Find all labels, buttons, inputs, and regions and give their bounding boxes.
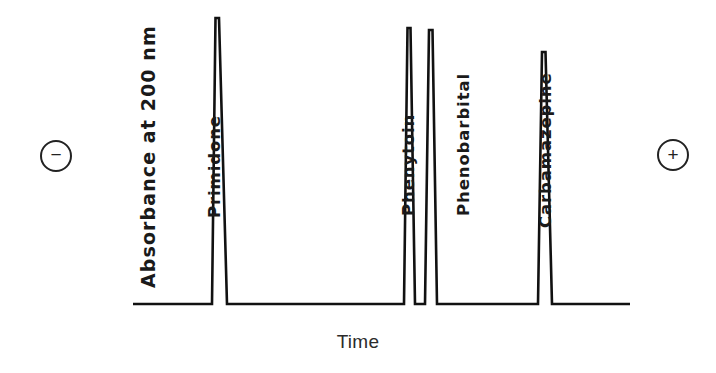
peak-label-phenytoin: Phenytoin <box>401 114 418 216</box>
chromatogram-trace <box>0 0 716 373</box>
electropherogram-figure: Absorbance at 200 nm Primidone Phenytoin… <box>0 0 716 373</box>
plus-sign: + <box>667 145 678 164</box>
minus-sign: − <box>50 145 61 164</box>
y-axis-title: Absorbance at 200 nm <box>139 25 158 288</box>
positive-polarity-icon: + <box>657 139 689 171</box>
peak-label-phenobarbital: Phenobarbital <box>456 73 473 216</box>
negative-polarity-icon: − <box>40 140 72 172</box>
peak-label-primidone: Primidone <box>207 115 224 218</box>
x-axis-title: Time <box>0 331 716 353</box>
peak-label-carbamazepine: Carbamazepine <box>538 72 555 228</box>
